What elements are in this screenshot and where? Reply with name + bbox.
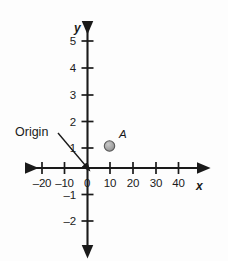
- data-point-a-label: A: [119, 129, 127, 141]
- y-tick-label-neg1: –1: [45, 190, 76, 202]
- data-point-a: [104, 141, 114, 151]
- y-tick-label-2: 2: [50, 117, 76, 129]
- y-tick-label-3: 3: [50, 90, 76, 102]
- coordinate-plane-figure: –20 –10 0 10 20 30 40 5 4 3 2 1 –1 –2 y …: [0, 0, 228, 261]
- x-axis: [26, 162, 198, 174]
- x-axis-label: x: [196, 180, 203, 192]
- y-axis: [82, 22, 94, 246]
- y-tick-label-neg2: –2: [45, 216, 76, 228]
- y-tick-label-4: 4: [50, 63, 76, 75]
- y-tick-label-1: 1: [50, 143, 76, 155]
- origin-annotation-label: Origin: [15, 126, 48, 139]
- y-tick-label-5: 5: [50, 36, 76, 48]
- x-tick-label-40: 40: [162, 178, 196, 190]
- y-axis-label: y: [74, 22, 81, 34]
